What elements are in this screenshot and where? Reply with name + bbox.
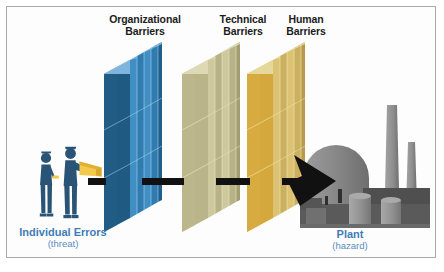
person-figure-back (40, 151, 59, 216)
threat-label-main: Individual Errors (2, 226, 124, 238)
barrier-human (247, 42, 305, 232)
threat-label-sub: (threat) (2, 238, 124, 249)
barrier-technical (182, 42, 240, 232)
barrier-label-organizational: Organizational Barriers (95, 14, 195, 37)
threat-label: Individual Errors (threat) (2, 226, 124, 249)
plant-group (300, 105, 430, 228)
diagram-figure: Organizational Barriers Technical Barrie… (0, 0, 444, 272)
barrier-label-human: Human Barriers (266, 14, 346, 37)
hazard-label: Plant (hazard) (300, 228, 400, 251)
barrier-organizational (104, 42, 162, 232)
hazard-label-sub: (hazard) (300, 240, 400, 251)
hazard-label-main: Plant (300, 228, 400, 240)
